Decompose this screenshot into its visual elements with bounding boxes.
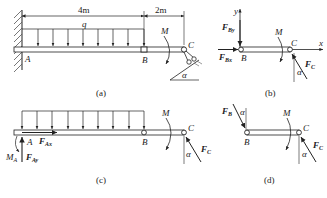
point-a-label: A bbox=[24, 54, 31, 64]
force-fc-label: FC bbox=[312, 140, 324, 151]
beam-diagram: 4m 2m q A B C M α (a) bbox=[0, 0, 327, 198]
moment-label: M bbox=[161, 108, 170, 118]
reaction-moment-arrow bbox=[15, 136, 19, 152]
beam-a bbox=[14, 47, 184, 52]
beam-d bbox=[247, 130, 299, 135]
force-fc-label: FC bbox=[304, 59, 316, 70]
force-fay-label: FAy bbox=[25, 152, 39, 163]
roller-1 bbox=[187, 60, 191, 64]
point-b-label: B bbox=[142, 137, 148, 147]
caption-a: (a) bbox=[96, 88, 106, 98]
point-c-label: C bbox=[291, 38, 298, 48]
reaction-moment-label: MA bbox=[5, 152, 18, 163]
pin-c bbox=[182, 130, 187, 135]
figure-b: y FBy FBx x B C M α FC (b) bbox=[218, 6, 323, 98]
pin-b bbox=[142, 130, 147, 135]
hinge-b bbox=[141, 47, 147, 52]
force-fc-label: FC bbox=[200, 144, 212, 155]
point-b-label: B bbox=[244, 137, 250, 147]
force-fby-label: FBy bbox=[221, 22, 235, 33]
point-c-label: C bbox=[303, 123, 310, 133]
moment-label: M bbox=[282, 108, 291, 118]
moment-label: M bbox=[274, 27, 283, 37]
figure-c: FAx FAy A MA B C M α FC (c) bbox=[5, 108, 212, 185]
caption-c: (c) bbox=[96, 175, 106, 185]
angle-alpha: α bbox=[186, 149, 191, 159]
pin-c bbox=[297, 130, 302, 135]
x-axis-label: x bbox=[318, 38, 323, 48]
angle-alpha-b: α bbox=[240, 107, 245, 117]
angle-alpha: α bbox=[182, 70, 187, 80]
moment-label: M bbox=[160, 26, 169, 36]
point-b-label: B bbox=[142, 55, 148, 65]
wall-hatch bbox=[14, 10, 22, 72]
roller-2 bbox=[192, 57, 196, 61]
point-a-label: A bbox=[26, 137, 33, 147]
load-label-q: q bbox=[82, 19, 87, 29]
force-fb-label: FB bbox=[221, 106, 232, 117]
distributed-load-arrows bbox=[38, 29, 144, 46]
point-c-label: C bbox=[188, 123, 195, 133]
force-fax-label: FAx bbox=[38, 136, 52, 147]
distributed-load-arrows bbox=[22, 111, 144, 129]
caption-b: (b) bbox=[265, 88, 276, 98]
dim-label-2m: 2m bbox=[155, 5, 167, 15]
figure-d: α FB B C M α FC (d) bbox=[221, 104, 324, 185]
force-fbx-label: FBx bbox=[218, 52, 232, 63]
pin-b bbox=[239, 47, 244, 52]
y-axis-label: y bbox=[233, 6, 238, 16]
angle-alpha-c: α bbox=[302, 149, 307, 159]
point-c-label: C bbox=[188, 40, 195, 50]
angle-alpha: α bbox=[297, 67, 302, 77]
pin-b bbox=[245, 130, 250, 135]
dim-label-4m: 4m bbox=[78, 5, 90, 15]
figure-a: 4m 2m q A B C M α (a) bbox=[14, 5, 202, 98]
caption-d: (d) bbox=[264, 175, 275, 185]
point-b-label: B bbox=[241, 53, 247, 63]
